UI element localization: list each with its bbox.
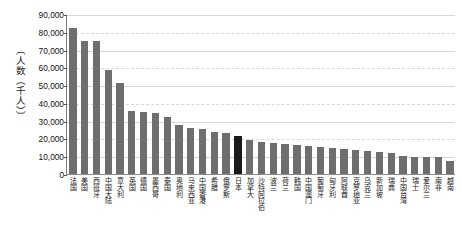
x-tick-label: 爱尔兰 [423,177,430,197]
y-tick-label: 20,000 [22,135,64,143]
bar [116,83,123,175]
plot-area [66,15,455,175]
bar [352,150,359,175]
y-tick-label: 40,000 [22,100,64,108]
x-tick-label: 韩国 [293,177,300,191]
bar [140,112,147,175]
y-tick-label: 60,000 [22,64,64,72]
x-tick-label: 中国澳门 [305,177,312,204]
x-tick-label: 泰国 [164,177,171,191]
x-tick-label: 中国台湾 [399,177,406,204]
x-tick-label: 阿联酋 [340,177,347,197]
bar [411,157,418,175]
bar [293,145,300,175]
y-tick-label: 50,000 [22,82,64,90]
bar [187,128,194,175]
x-tick-label: 波兰 [270,177,277,191]
x-tick-label: 沙特阿拉伯 [258,177,265,211]
x-tick-label: 匈牙利 [329,177,336,197]
bar [246,140,253,175]
y-tick-label: 80,000 [22,29,64,37]
x-tick-label: 加拿大 [246,177,253,197]
x-axis-category-labels: 法国美国西班牙中国大陆意大利英国德国墨西哥泰国奥地利马来西亚中国香港希腊俄罗斯日… [66,177,455,237]
bar [423,157,430,175]
bars-layer [66,15,455,175]
bar [234,136,241,175]
x-tick-label: 越南 [447,177,454,191]
x-tick-label: 马来西亚 [187,177,194,204]
x-tick-label: 奥地利 [175,177,182,197]
bar [258,142,265,175]
x-tick-label: 俄罗斯 [223,177,230,197]
bar [399,156,406,175]
bar [81,41,88,175]
bar [364,151,371,175]
bar [164,117,171,175]
x-tick-label: 荷兰 [281,177,288,191]
bar [446,161,453,175]
y-tick-label: 70,000 [22,46,64,54]
bar [211,132,218,175]
x-tick-label: 中国香港 [199,177,206,204]
bar [376,152,383,175]
bar-chart: 〔人数（千人）〕 90,00080,00070,00060,00050,0004… [0,0,462,238]
y-axis-tick-labels: 90,00080,00070,00060,00050,00040,00030,0… [22,15,64,175]
x-tick-label: 克罗地亚 [352,177,359,204]
y-tick-mark [64,175,67,176]
x-tick-label: 意大利 [116,177,123,197]
x-tick-label: 葡萄牙 [317,177,324,197]
bar [281,144,288,175]
bar [69,28,76,175]
x-tick-label: 南非 [435,177,442,191]
bar [152,113,159,175]
bar [270,143,277,175]
bar [388,153,395,175]
x-tick-label: 瑞典 [388,177,395,191]
x-tick-label: 新加坡 [376,177,383,197]
x-axis-line [66,174,455,175]
x-tick-label: 美国 [81,177,88,191]
bar [340,149,347,175]
bar [222,133,229,175]
bar [105,70,112,175]
bar [317,147,324,175]
x-tick-label: 中国大陆 [105,177,112,204]
x-tick-label: 日本 [234,177,241,191]
x-tick-label: 瑞士 [411,177,418,191]
y-tick-label: 90,000 [22,11,64,19]
bar [435,157,442,175]
x-tick-label: 德国 [140,177,147,191]
y-tick-label: 10,000 [22,153,64,161]
x-tick-label: 法国 [69,177,76,191]
y-tick-label: 30,000 [22,118,64,126]
bar [305,146,312,175]
x-tick-label: 西班牙 [93,177,100,197]
x-tick-label: 希腊 [211,177,218,191]
x-tick-label: 墨西哥 [152,177,159,197]
bar [128,111,135,175]
bar [93,41,100,175]
bar [329,148,336,175]
bar [175,125,182,175]
bar [199,129,206,175]
y-tick-label: 0 [22,171,64,179]
x-tick-label: 英国 [128,177,135,191]
x-tick-label: 乌克兰 [364,177,371,197]
